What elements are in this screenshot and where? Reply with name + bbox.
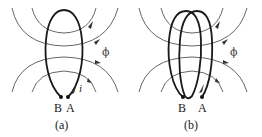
flux-line-bottom-inner [32,71,96,92]
flux-line-bottom-outer [139,57,247,92]
flux-label: ϕ [102,46,110,59]
flux-arrow-icon [222,39,228,45]
figure-canvas: i ϕ B A (a) ϕ B A (b) [0,0,262,137]
flux-arrow-icon [215,78,220,83]
panel-a: i ϕ B A (a) [12,8,118,132]
current-label: i [79,82,82,94]
terminal-a-label: A [66,101,75,115]
panel-caption: (a) [55,118,68,132]
terminal-b-label: B [54,101,62,115]
panel-caption: (b) [184,118,198,132]
flux-line-top-inner [32,8,96,33]
flux-arrow-icon [94,39,100,45]
coil-loop [46,10,83,97]
terminal-b-dot [59,95,63,99]
flux-arrow-icon [223,60,229,64]
terminal-a-dot [200,95,204,99]
terminal-b-dot [181,95,185,99]
flux-line-bottom-inner [161,71,223,92]
coil-turn-1 [169,11,202,98]
terminal-a-dot [66,95,70,99]
flux-line-top-outer [12,8,118,46]
flux-arrow-icon [95,60,101,64]
flux-label: ϕ [230,46,238,59]
terminal-a-label: A [198,101,207,115]
panel-b: ϕ B A (b) [139,8,247,132]
current-arrow-icon [199,84,204,93]
flux-line-bottom-outer [12,57,118,92]
terminal-b-label: B [178,101,186,115]
